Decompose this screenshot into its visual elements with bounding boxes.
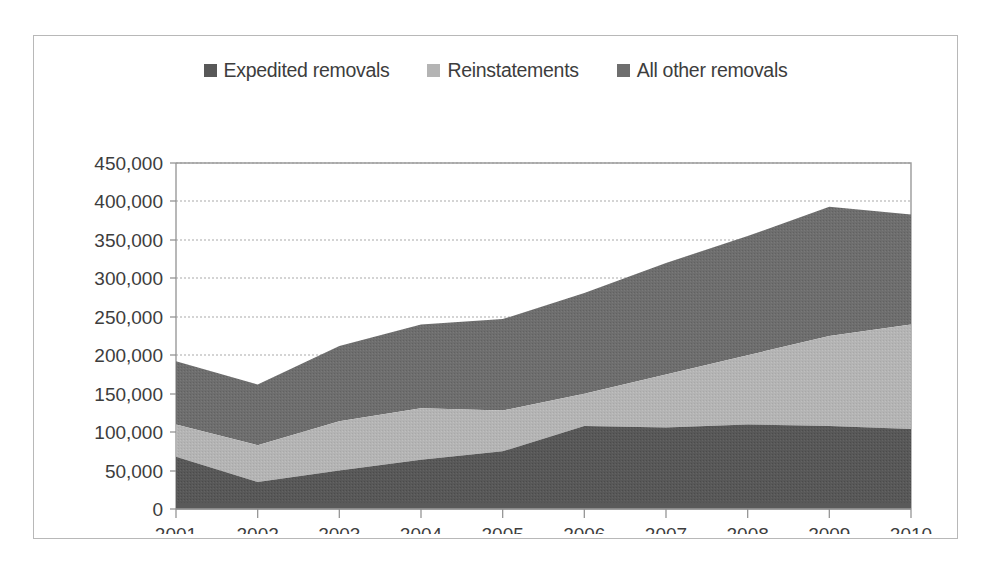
legend-swatch-all-other-removals <box>617 64 630 77</box>
legend-swatch-reinstatements <box>427 64 440 77</box>
legend-entry-reinstatements[interactable]: Reinstatements <box>427 59 578 82</box>
xtick-label-2009: 2009 <box>808 524 850 534</box>
xtick-label-2010: 2010 <box>890 524 932 534</box>
xtick-label-2007: 2007 <box>645 524 687 534</box>
ytick-label-450000: 450,000 <box>94 153 163 174</box>
ytick-label-250000: 250,000 <box>94 307 163 328</box>
x-axis-baseline <box>176 506 911 509</box>
ytick-label-0: 0 <box>152 499 163 520</box>
chart-legend: Expedited removals Reinstatements All ot… <box>34 59 957 82</box>
ytick-label-200000: 200,000 <box>94 345 163 366</box>
y-axis-tick-labels: 450,000 400,000 350,000 300,000 250,000 … <box>94 153 163 520</box>
xtick-label-2006: 2006 <box>563 524 605 534</box>
stacked-area-chart-svg: 450,000 400,000 350,000 300,000 250,000 … <box>34 94 959 534</box>
xtick-label-2001: 2001 <box>155 524 197 534</box>
chart-figure: Expedited removals Reinstatements All ot… <box>33 35 958 539</box>
x-axis-tickmarks <box>176 509 911 518</box>
y-axis-tickmarks <box>170 163 176 509</box>
legend-label-expedited-removals: Expedited removals <box>224 59 390 82</box>
ytick-label-400000: 400,000 <box>94 191 163 212</box>
ytick-label-50000: 50,000 <box>105 461 163 482</box>
legend-label-all-other-removals: All other removals <box>637 59 788 82</box>
xtick-label-2005: 2005 <box>482 524 524 534</box>
x-axis-tick-labels: 2001 2002 2003 2004 2005 2006 2007 2008 … <box>155 524 932 534</box>
ytick-label-100000: 100,000 <box>94 422 163 443</box>
xtick-label-2002: 2002 <box>237 524 279 534</box>
ytick-label-350000: 350,000 <box>94 230 163 251</box>
legend-label-reinstatements: Reinstatements <box>447 59 578 82</box>
legend-entry-expedited-removals[interactable]: Expedited removals <box>204 59 390 82</box>
xtick-label-2008: 2008 <box>727 524 769 534</box>
ytick-label-150000: 150,000 <box>94 384 163 405</box>
plot-area: 450,000 400,000 350,000 300,000 250,000 … <box>34 94 959 534</box>
legend-swatch-expedited-removals <box>204 64 217 77</box>
xtick-label-2004: 2004 <box>400 524 443 534</box>
xtick-label-2003: 2003 <box>318 524 360 534</box>
ytick-label-300000: 300,000 <box>94 268 163 289</box>
legend-entry-all-other-removals[interactable]: All other removals <box>617 59 788 82</box>
